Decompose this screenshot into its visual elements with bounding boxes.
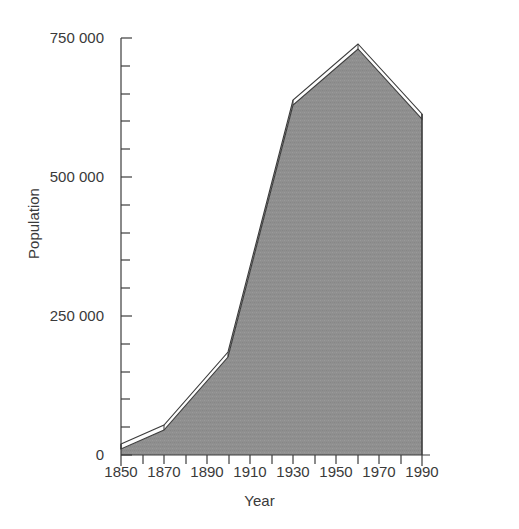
y-axis-ticks [121,38,132,455]
population-area-chart: Population Year 750 000 500 000 250 000 … [0,0,519,529]
x-axis-ticks [121,455,422,466]
area-fill [121,49,422,455]
plot-canvas [0,0,519,529]
